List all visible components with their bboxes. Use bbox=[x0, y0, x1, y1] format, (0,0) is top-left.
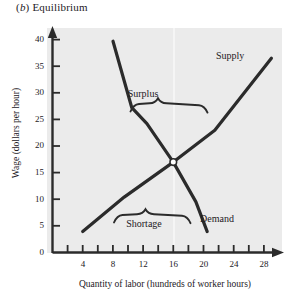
surplus-region-label: Surplus bbox=[128, 88, 159, 99]
y-tick-label-35: 35 bbox=[22, 61, 44, 71]
y-tick-label-10: 10 bbox=[22, 194, 44, 204]
y-tick-label-30: 30 bbox=[22, 87, 44, 97]
y-axis-title: Wage (dollars per hour) bbox=[11, 71, 21, 195]
shortage-region-label: Shortage bbox=[126, 218, 162, 229]
supply-curve bbox=[83, 58, 272, 231]
x-tick-label-24: 24 bbox=[223, 259, 245, 269]
x-tick-label-20: 20 bbox=[193, 259, 215, 269]
demand-curve bbox=[113, 41, 207, 231]
y-axis bbox=[48, 26, 57, 253]
y-tick-label-25: 25 bbox=[22, 114, 44, 124]
surplus-brace bbox=[131, 98, 208, 112]
demand-curve-label: Demand bbox=[200, 213, 234, 224]
y-tick-label-40: 40 bbox=[22, 34, 44, 44]
supply-curve-label: Supply bbox=[216, 50, 244, 61]
y-tick-label-20: 20 bbox=[22, 140, 44, 150]
equilibrium-figure: (b) Equilibrium bbox=[0, 0, 288, 299]
x-tick-label-12: 12 bbox=[132, 259, 154, 269]
x-tick-label-8: 8 bbox=[102, 259, 124, 269]
y-tick-label-15: 15 bbox=[22, 167, 44, 177]
y-tick-label-5: 5 bbox=[22, 220, 44, 230]
x-tick-label-28: 28 bbox=[253, 259, 275, 269]
y-tick-label-0: 0 bbox=[22, 247, 44, 257]
equilibrium-point-marker bbox=[170, 159, 177, 166]
x-axis-title: Quantity of labor (hundreds of worker ho… bbox=[47, 279, 283, 289]
x-tick-label-4: 4 bbox=[72, 259, 94, 269]
x-tick-label-16: 16 bbox=[163, 259, 185, 269]
